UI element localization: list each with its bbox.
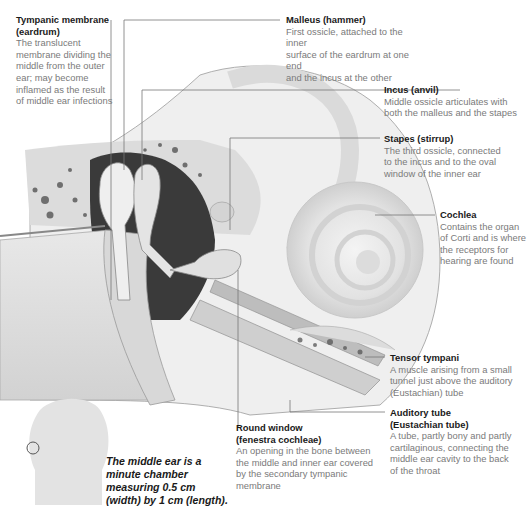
label-desc: hearing are found (440, 255, 530, 267)
caption-line: (width) by 1 cm (length). (106, 494, 236, 507)
label-incus: Incus (anvil) Middle ossicle articulates… (384, 84, 524, 119)
label-desc: both the malleus and the stapes (384, 107, 524, 119)
label-title: Cochlea (440, 209, 530, 221)
label-title: Stapes (stirrup) (384, 133, 524, 145)
label-desc: of Corti and is where (440, 232, 530, 244)
label-desc: surface of the eardrum at one end (286, 49, 426, 72)
label-desc: inflamed as the result (16, 84, 116, 96)
caption-line: minute chamber (106, 468, 236, 481)
label-desc: membrane dividing the (16, 49, 116, 61)
label-title: Tympanic membrane (16, 14, 116, 26)
label-title: (Eustachian tube) (390, 419, 530, 431)
label-desc: to the incus and to the oval (384, 156, 524, 168)
label-desc: A tube, partly bony and partly (390, 430, 530, 442)
label-title: Incus (anvil) (384, 84, 524, 96)
label-title: (eardrum) (16, 26, 116, 38)
label-title: (fenestra cochleae) (236, 434, 386, 446)
caption-line: The middle ear is a (106, 455, 236, 468)
label-desc: window of the inner ear (384, 168, 524, 180)
label-desc: membrane (236, 480, 386, 492)
label-desc: cartilaginous, connecting the (390, 442, 530, 454)
caption-line: measuring 0.5 cm (106, 481, 236, 494)
label-desc: and the incus at the other (286, 72, 426, 84)
label-title: Malleus (hammer) (286, 14, 426, 26)
label-tensor-tympani: Tensor tympani A muscle arising from a s… (390, 352, 530, 398)
label-desc: The third ossicle, connected (384, 145, 524, 157)
label-desc: of the throat (390, 465, 530, 477)
label-malleus: Malleus (hammer) First ossicle, attached… (286, 14, 426, 84)
label-cochlea: Cochlea Contains the organ of Corti and … (440, 209, 530, 267)
label-desc: the middle and inner ear covered (236, 457, 386, 469)
label-auditory-tube: Auditory tube (Eustachian tube) A tube, … (390, 407, 530, 477)
label-title: Tensor tympani (390, 352, 530, 364)
label-desc: An opening in the bone between (236, 445, 386, 457)
label-title: Auditory tube (390, 407, 530, 419)
label-desc: (Eustachian) tube (390, 387, 530, 399)
label-desc: First ossicle, attached to the inner (286, 26, 426, 49)
cochlea-shape (287, 182, 423, 318)
label-desc: of middle ear infections (16, 95, 116, 107)
label-stapes: Stapes (stirrup) The third ossicle, conn… (384, 133, 524, 179)
label-desc: The translucent (16, 37, 116, 49)
label-tympanic-membrane: Tympanic membrane (eardrum) The transluc… (16, 14, 116, 107)
label-desc: ear; may become (16, 72, 116, 84)
label-desc: middle from the outer (16, 60, 116, 72)
size-caption: The middle ear is a minute chamber measu… (106, 455, 236, 507)
label-title: Round window (236, 422, 386, 434)
label-desc: middle ear cavity to the back (390, 453, 530, 465)
label-desc: Middle ossicle articulates with (384, 96, 524, 108)
label-desc: the receptors for (440, 244, 530, 256)
label-desc: Contains the organ (440, 221, 530, 233)
label-desc: by the secondary tympanic (236, 468, 386, 480)
head-silhouette (27, 399, 109, 505)
label-desc: A muscle arising from a small (390, 364, 530, 376)
label-desc: tunnel just above the auditory (390, 375, 530, 387)
label-round-window: Round window (fenestra cochleae) An open… (236, 422, 386, 492)
